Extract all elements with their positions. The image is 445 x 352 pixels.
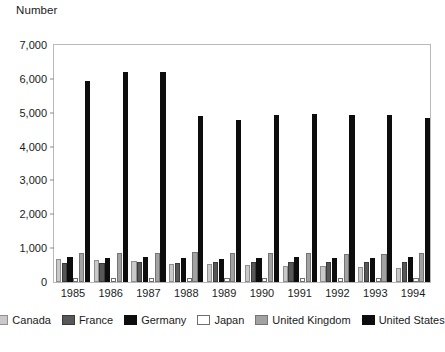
bar-canada-1988[interactable] xyxy=(169,264,174,282)
legend-item-canada[interactable]: Canada xyxy=(0,314,51,326)
bar-japan-1992[interactable] xyxy=(338,278,343,282)
bar-germany-1991[interactable] xyxy=(294,257,299,282)
x-tick-label-1991: 1991 xyxy=(287,287,311,299)
bar-canada-1989[interactable] xyxy=(207,264,212,282)
x-tick-label-1993: 1993 xyxy=(363,287,387,299)
bar-germany-1986[interactable] xyxy=(105,258,110,282)
bar-united-kingdom-1987[interactable] xyxy=(155,253,160,282)
y-tick-label-6000: 6,000 xyxy=(19,73,47,85)
legend-swatch-canada-icon xyxy=(0,315,8,325)
bar-canada-1993[interactable] xyxy=(358,267,363,282)
bar-germany-1992[interactable] xyxy=(332,258,337,282)
bar-group-1988: 1988 xyxy=(167,45,205,282)
legend-item-france[interactable]: France xyxy=(62,314,113,326)
bar-japan-1989[interactable] xyxy=(224,278,229,282)
bar-germany-1987[interactable] xyxy=(143,257,148,282)
bar-france-1985[interactable] xyxy=(62,263,67,282)
bar-germany-1985[interactable] xyxy=(67,257,72,282)
bar-group-1994: 1994 xyxy=(394,45,432,282)
bar-united-states-1991[interactable] xyxy=(312,114,317,282)
bar-japan-1985[interactable] xyxy=(73,278,78,282)
bar-united-states-1988[interactable] xyxy=(198,116,203,282)
legend-label: France xyxy=(79,314,113,326)
bar-japan-1993[interactable] xyxy=(376,278,381,282)
bar-france-1992[interactable] xyxy=(326,262,331,282)
bar-united-states-1993[interactable] xyxy=(387,115,392,282)
bar-canada-1991[interactable] xyxy=(283,266,288,282)
bar-japan-1991[interactable] xyxy=(300,278,305,282)
bar-france-1986[interactable] xyxy=(99,263,104,282)
legend-swatch-united-kingdom-icon xyxy=(255,315,268,325)
bar-canada-1986[interactable] xyxy=(94,260,99,282)
bar-united-states-1986[interactable] xyxy=(123,72,128,282)
y-tick-label-4000: 4,000 xyxy=(19,141,47,153)
bar-france-1988[interactable] xyxy=(175,263,180,282)
y-tick-label-3000: 3,000 xyxy=(19,174,47,186)
bar-japan-1988[interactable] xyxy=(187,278,192,282)
bar-japan-1986[interactable] xyxy=(111,278,116,282)
bar-canada-1990[interactable] xyxy=(245,265,250,282)
x-tick-label-1988: 1988 xyxy=(174,287,198,299)
bar-united-states-1992[interactable] xyxy=(349,115,354,282)
bar-japan-1987[interactable] xyxy=(149,278,154,282)
legend-swatch-japan-icon xyxy=(197,315,210,325)
legend-item-united-kingdom[interactable]: United Kingdom xyxy=(255,314,350,326)
x-tick-label-1990: 1990 xyxy=(250,287,274,299)
x-tick-label-1989: 1989 xyxy=(212,287,236,299)
bar-germany-1994[interactable] xyxy=(408,257,413,282)
bar-group-1986: 1986 xyxy=(92,45,130,282)
legend-label: Japan xyxy=(214,314,244,326)
bar-france-1987[interactable] xyxy=(137,262,142,282)
bar-france-1990[interactable] xyxy=(251,262,256,282)
bar-germany-1990[interactable] xyxy=(256,258,261,282)
legend-swatch-france-icon xyxy=(62,315,75,325)
y-tick-label-7000: 7,000 xyxy=(19,39,47,51)
bar-germany-1989[interactable] xyxy=(219,259,224,282)
bar-united-states-1987[interactable] xyxy=(160,72,165,282)
legend-item-japan[interactable]: Japan xyxy=(197,314,244,326)
bar-united-kingdom-1989[interactable] xyxy=(230,253,235,282)
bar-united-kingdom-1991[interactable] xyxy=(306,253,311,282)
bar-canada-1994[interactable] xyxy=(396,268,401,282)
bar-united-kingdom-1985[interactable] xyxy=(79,253,84,282)
legend-swatch-united-states-icon xyxy=(362,315,375,325)
bar-canada-1985[interactable] xyxy=(56,259,61,282)
bar-united-states-1994[interactable] xyxy=(425,118,430,282)
bar-france-1991[interactable] xyxy=(288,262,293,282)
plot-inner: 01,0002,0003,0004,0005,0006,0007,0001985… xyxy=(54,45,430,282)
bar-germany-1988[interactable] xyxy=(181,258,186,282)
bar-canada-1992[interactable] xyxy=(320,266,325,282)
bar-group-1990: 1990 xyxy=(243,45,281,282)
bar-france-1993[interactable] xyxy=(364,262,369,282)
chart-legend: CanadaFranceGermanyJapanUnited KingdomUn… xyxy=(0,314,440,326)
bar-united-kingdom-1994[interactable] xyxy=(419,253,424,282)
bar-group-1993: 1993 xyxy=(356,45,394,282)
x-tick-label-1986: 1986 xyxy=(98,287,122,299)
x-tick-label-1985: 1985 xyxy=(61,287,85,299)
bar-united-kingdom-1990[interactable] xyxy=(268,253,273,282)
bar-japan-1990[interactable] xyxy=(262,278,267,282)
legend-label: Canada xyxy=(12,314,51,326)
y-tick-label-5000: 5,000 xyxy=(19,107,47,119)
y-tick-label-0: 0 xyxy=(41,276,47,288)
bar-japan-1994[interactable] xyxy=(413,278,418,282)
bar-france-1989[interactable] xyxy=(213,262,218,282)
y-axis-title: Number xyxy=(16,4,58,16)
bar-group-1991: 1991 xyxy=(281,45,319,282)
bar-united-kingdom-1993[interactable] xyxy=(381,254,386,282)
bar-united-states-1989[interactable] xyxy=(236,120,241,282)
bar-united-states-1990[interactable] xyxy=(274,115,279,282)
bar-germany-1993[interactable] xyxy=(370,258,375,282)
legend-item-united-states[interactable]: United States xyxy=(362,314,445,326)
bar-france-1994[interactable] xyxy=(402,262,407,282)
legend-item-germany[interactable]: Germany xyxy=(124,314,186,326)
bar-united-kingdom-1988[interactable] xyxy=(192,252,197,282)
bar-united-kingdom-1986[interactable] xyxy=(117,253,122,282)
legend-label: United Kingdom xyxy=(272,314,350,326)
legend-swatch-germany-icon xyxy=(124,315,137,325)
bar-united-kingdom-1992[interactable] xyxy=(344,254,349,282)
bar-united-states-1985[interactable] xyxy=(85,81,90,282)
bar-group-1992: 1992 xyxy=(319,45,357,282)
bar-canada-1987[interactable] xyxy=(131,261,136,283)
